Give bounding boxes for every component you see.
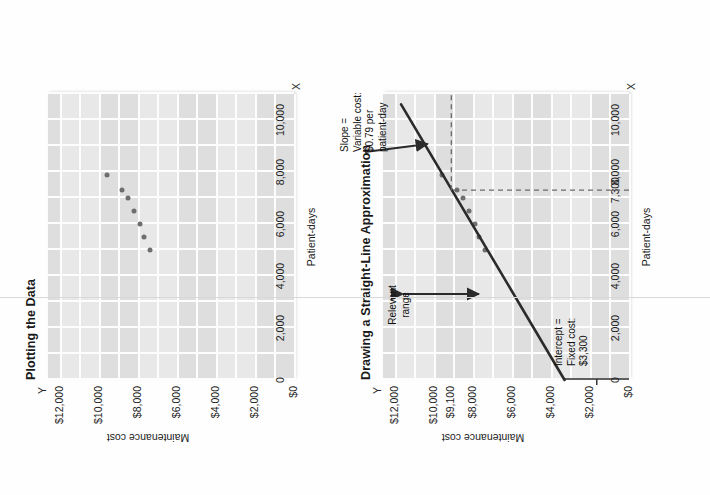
y-tick-label: $0 (622, 386, 634, 452)
gridline-horizontal (177, 94, 179, 380)
x-axis-title-right: Patient-days (640, 94, 652, 380)
data-point (147, 248, 152, 253)
gridline-vertical (48, 118, 294, 120)
gridline-horizontal (414, 94, 416, 380)
gridline-vertical (48, 300, 294, 302)
gridline-horizontal (434, 94, 436, 380)
gridline-horizontal (118, 94, 120, 380)
data-point (461, 196, 466, 201)
gridline-horizontal (157, 94, 159, 380)
gridline-vertical (383, 378, 629, 380)
figure-title-left: Plotting the Data (24, 279, 38, 380)
gridline-vertical (383, 222, 629, 224)
gridline-vertical (48, 170, 294, 172)
y-tick-label: $2,000 (248, 386, 260, 452)
gridline-vertical (48, 144, 294, 146)
y-axis-title-right: Maintenance cost (423, 432, 543, 444)
data-point (455, 188, 460, 193)
gridline-vertical (48, 92, 294, 94)
y-tick-label: $4,000 (544, 386, 556, 452)
gridline-vertical (48, 222, 294, 224)
y-tick-label: $2,000 (583, 386, 595, 452)
gridline-horizontal (235, 94, 237, 380)
gridline-vertical (383, 300, 629, 302)
gridline-horizontal (473, 94, 475, 380)
data-point (472, 222, 477, 227)
x-tick-label: 8,000 (609, 159, 621, 185)
gridline-horizontal (196, 94, 198, 380)
y-axis-title-left: Maintenance cost (88, 432, 208, 444)
gridline-horizontal (138, 94, 140, 380)
y-tick-label: $12,000 (53, 386, 65, 452)
page-seam (0, 297, 710, 298)
x-tick-label: 4,000 (609, 263, 621, 289)
gridline-vertical (48, 378, 294, 380)
gridline-horizontal (629, 94, 631, 380)
gridline-horizontal (255, 94, 257, 380)
gridline-vertical (383, 144, 629, 146)
data-point (141, 235, 146, 240)
gridline-horizontal (216, 94, 218, 380)
gridline-horizontal (531, 94, 533, 380)
x-axis-title-left: Patient-days (305, 94, 317, 380)
gridline-vertical (383, 92, 629, 94)
x-tick-label: 0 (609, 377, 621, 383)
gridline-horizontal (492, 94, 494, 380)
x-axis-letter-left: X (290, 83, 302, 90)
x-tick-label: 10,000 (609, 104, 621, 136)
gridline-vertical (383, 118, 629, 120)
gridline-vertical (383, 196, 629, 198)
data-point (126, 196, 131, 201)
y-axis-letter-left: Y (36, 387, 48, 394)
data-point (476, 235, 481, 240)
gridline-vertical (48, 274, 294, 276)
y-axis-letter-right: Y (371, 387, 383, 394)
gridline-vertical (383, 248, 629, 250)
gridline-vertical (48, 196, 294, 198)
gridline-horizontal (512, 94, 514, 380)
data-point (131, 209, 136, 214)
gridline-horizontal (79, 94, 81, 380)
figure-title-right: Drawing a Straight-Line Approximation (359, 145, 373, 380)
data-point (137, 222, 142, 227)
data-point (104, 172, 109, 177)
plot-area-right (383, 94, 629, 380)
x-tick-label: 2,000 (609, 315, 621, 341)
y-tick-label: $4,000 (209, 386, 221, 452)
gridline-horizontal (294, 94, 296, 380)
x-tick-label: 8,000 (274, 159, 286, 185)
plot-area-left (48, 94, 294, 380)
gridline-horizontal (99, 94, 101, 380)
gridline-horizontal (453, 94, 455, 380)
gridline-vertical (383, 170, 629, 172)
x-tick-label: 4,000 (274, 263, 286, 289)
x-tick-label: 6,000 (609, 211, 621, 237)
figure-straight-line-approximation: Drawing a Straight-Line Approximation Y … (357, 22, 687, 452)
gridline-vertical (383, 274, 629, 276)
annotation-intercept: Intercept = Fixed cost: $3,300 (553, 318, 591, 366)
gridline-horizontal (60, 94, 62, 380)
gridline-vertical (383, 326, 629, 328)
data-point (482, 248, 487, 253)
gridline-vertical (383, 352, 629, 354)
gridline-vertical (48, 352, 294, 354)
x-tick-label: 6,000 (274, 211, 286, 237)
figure-page: Plotting the Data Y X $0$2,000$4,000$6,0… (0, 0, 710, 495)
gridline-vertical (48, 248, 294, 250)
x-tick-label: 10,000 (274, 104, 286, 136)
x-axis-letter-right: X (625, 83, 637, 90)
y-tick-label: $0 (287, 386, 299, 452)
data-point (120, 188, 125, 193)
x-tick-label: 2,000 (274, 315, 286, 341)
figure-plotting-the-data: Plotting the Data Y X $0$2,000$4,000$6,0… (22, 22, 352, 452)
y-tick-label: $12,000 (388, 386, 400, 452)
annotation-slope: Slope = Variable cost: $0.79 per patient… (339, 92, 389, 152)
data-point (439, 172, 444, 177)
annotation-relevant-range: Relevant range (387, 276, 412, 334)
gridline-vertical (48, 326, 294, 328)
x-tick-label: 0 (274, 377, 286, 383)
data-point (466, 209, 471, 214)
gridline-horizontal (395, 94, 397, 380)
